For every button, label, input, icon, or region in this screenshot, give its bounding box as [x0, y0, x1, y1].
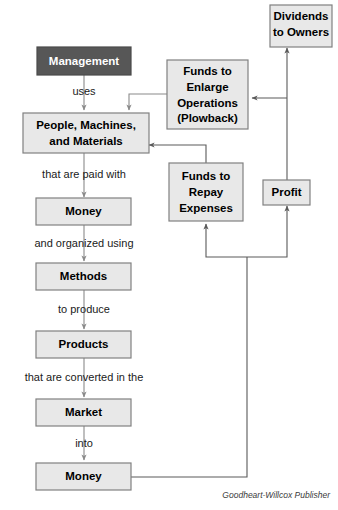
node-plowback[interactable]: Funds to Enlarge Operations (Plowback) [167, 60, 248, 129]
node-repay-label-line2: Repay [189, 186, 224, 198]
publisher-credit: Goodheart-Willcox Publisher [222, 490, 331, 500]
node-people-label-line2: and Materials [49, 135, 123, 147]
edge-label-to-produce: to produce [58, 303, 110, 315]
edge-label-paid-with: that are paid with [42, 168, 126, 180]
connector-split-to-profit [247, 206, 287, 257]
node-people-label-line1: People, Machines, [36, 119, 136, 131]
node-plowback-label-line4: (Plowback) [177, 112, 238, 124]
node-repay-expenses[interactable]: Funds to Repay Expenses [169, 163, 243, 221]
node-dividends-label-line2: to Owners [273, 26, 329, 38]
node-methods-label: Methods [60, 270, 107, 282]
node-management[interactable]: Management [37, 47, 131, 75]
node-money2-label: Money [65, 470, 102, 482]
edge-label-uses: uses [72, 85, 96, 97]
node-plowback-label-line2: Enlarge [186, 81, 228, 93]
node-management-label: Management [49, 55, 119, 67]
connector-split-to-repay [206, 224, 247, 257]
node-methods[interactable]: Methods [36, 263, 131, 290]
node-plowback-label-line1: Funds to [183, 65, 232, 77]
node-market[interactable]: Market [36, 399, 131, 426]
node-money-wages[interactable]: Money [36, 198, 131, 225]
edge-label-organized-using: and organized using [34, 237, 133, 249]
node-money-revenue[interactable]: Money [36, 463, 131, 490]
edge-label-converted-in-the: that are converted in the [25, 371, 144, 383]
node-people-machines-materials[interactable]: People, Machines, and Materials [23, 113, 149, 153]
business-money-flow-diagram: Dividends to Owners Management Funds to … [0, 0, 338, 510]
edge-label-into: into [75, 437, 93, 449]
node-profit[interactable]: Profit [263, 180, 310, 205]
connector-repay-to-people [149, 145, 206, 163]
node-products[interactable]: Products [36, 331, 131, 358]
node-dividends-label-line1: Dividends [274, 10, 329, 22]
node-repay-label-line3: Expenses [179, 202, 233, 214]
node-repay-label-line1: Funds to [182, 170, 231, 182]
node-products-label: Products [59, 338, 109, 350]
connector-plowback-to-people [129, 94, 167, 110]
node-market-label: Market [65, 406, 102, 418]
node-dividends-to-owners[interactable]: Dividends to Owners [270, 5, 332, 47]
node-money1-label: Money [65, 205, 102, 217]
connector-money2-to-split [130, 257, 247, 477]
node-profit-label: Profit [271, 186, 301, 198]
node-plowback-label-line3: Operations [177, 97, 238, 109]
